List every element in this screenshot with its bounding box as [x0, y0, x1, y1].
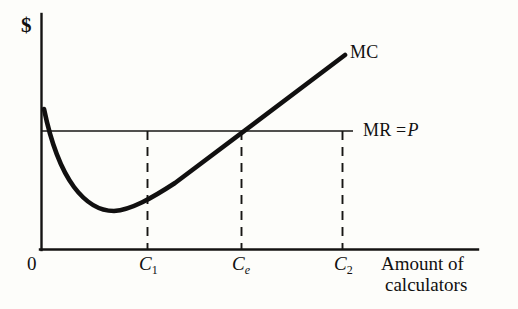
mr-label-text: MR = — [363, 120, 406, 140]
tick-label-ce-subscript: e — [245, 263, 250, 277]
tick-label-c1: C1 — [139, 254, 158, 273]
tick-label-c2: C2 — [334, 254, 353, 273]
mr-label-price-symbol: P — [406, 120, 418, 140]
tick-label-ce-letter: C — [232, 253, 245, 274]
origin-label: 0 — [27, 254, 37, 273]
tick-label-c1-letter: C — [139, 253, 152, 274]
x-axis-title-line2: calculators — [381, 274, 467, 295]
tick-label-c2-letter: C — [334, 253, 347, 274]
tick-label-c2-subscript: 2 — [347, 263, 353, 277]
tick-label-c1-subscript: 1 — [152, 263, 158, 277]
x-axis-title-line1: Amount of — [381, 253, 464, 274]
y-axis-label: $ — [21, 15, 32, 36]
mr-price-label: MR =P — [363, 121, 419, 139]
mc-curve-label: MC — [350, 43, 378, 61]
x-axis-title: Amount ofcalculators — [381, 253, 467, 296]
mc-curve — [44, 55, 345, 211]
tick-label-ce: Ce — [232, 254, 250, 273]
cost-curve-figure: $ 0 MC MR =P C1 Ce C2 Amount ofcalculato… — [0, 0, 518, 309]
